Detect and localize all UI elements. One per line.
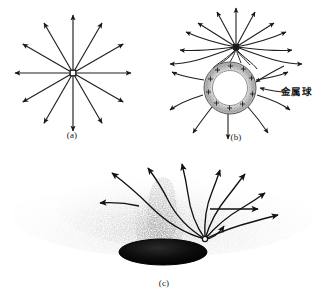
metal-sphere-label: 金属球 <box>281 84 312 98</box>
point-charge-a <box>70 70 76 76</box>
figure-sheet: (a) <box>0 0 328 300</box>
figure-panel-b <box>164 0 328 150</box>
point-charge-b <box>233 44 238 49</box>
panel-a-caption: (a) <box>52 130 92 140</box>
panel-c-caption: (c) <box>144 278 184 288</box>
figure-panel-a <box>0 0 164 150</box>
panel-b-caption: (b) <box>216 132 256 142</box>
field-source-point-c <box>202 236 207 241</box>
metal-sphere-core <box>213 71 248 106</box>
